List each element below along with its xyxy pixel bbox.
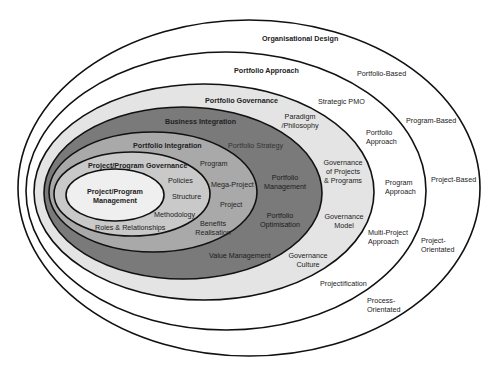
label-portfolio-optimisation-line2: Optimisation xyxy=(255,220,305,229)
label-paradigm-line1: Paradigm xyxy=(278,112,322,121)
label-portfolio-governance: Portfolio Governance xyxy=(205,96,278,105)
label-portfolio-approach-right: Portfolio Approach xyxy=(366,128,397,146)
label-roles-relationships: Roles & Relationships xyxy=(95,223,165,232)
label-portfolio-based: Portfolio-Based xyxy=(357,69,406,78)
label-program-approach-line1: Program xyxy=(385,178,416,187)
label-gov-culture-line2: Culture xyxy=(286,260,330,269)
label-program: Program xyxy=(200,159,228,168)
label-gov-projects-line2: of Projects xyxy=(321,167,365,176)
label-structure: Structure xyxy=(172,192,201,201)
label-multi-project-approach-line1: Multi-Project xyxy=(368,228,408,237)
label-portfolio-management-line2: Management xyxy=(262,182,308,191)
label-program-approach: Program Approach xyxy=(385,178,416,196)
label-paradigm-line2: /Philosophy xyxy=(278,121,322,130)
label-gov-projects-line1: Governance xyxy=(321,158,365,167)
label-business-integration: Business Integration xyxy=(165,117,236,126)
label-gov-model-line2: Model xyxy=(322,221,366,230)
label-program-approach-line2: Approach xyxy=(385,187,416,196)
label-portfolio-management-line1: Portfolio xyxy=(262,173,308,182)
label-gov-model-line1: Governance xyxy=(322,212,366,221)
label-project-program-governance: Project/Program Governance xyxy=(88,161,187,170)
label-benefits-line1: Benefits xyxy=(193,219,233,228)
label-benefits-realisation: Benefits Realisation xyxy=(193,219,233,237)
label-portfolio-management: Portfolio Management xyxy=(262,173,308,191)
label-value-management: Value Management xyxy=(209,251,271,260)
label-process-orientated: Process- Orientated xyxy=(367,296,401,314)
label-project-orientated-line2: Orientated xyxy=(421,245,455,254)
label-projectification: Projectification xyxy=(320,279,367,288)
label-benefits-line2: Realisation xyxy=(193,228,233,237)
label-portfolio-approach: Portfolio Approach xyxy=(234,66,299,75)
label-multi-project-approach: Multi-Project Approach xyxy=(368,228,408,246)
label-policies: Policies xyxy=(168,176,193,185)
label-methodology: Methodology xyxy=(154,210,195,219)
label-project: Project xyxy=(220,200,242,209)
label-project-program-management: Project/Program Management xyxy=(84,187,146,205)
label-portfolio-integration: Portfolio Integration xyxy=(133,141,202,150)
label-process-orientated-line2: Orientated xyxy=(367,305,401,314)
label-project-orientated-line1: Project- xyxy=(421,236,455,245)
label-process-orientated-line1: Process- xyxy=(367,296,401,305)
label-gov-culture-line1: Governance xyxy=(286,251,330,260)
label-ppm-line2: Management xyxy=(84,196,146,205)
label-governance-of-projects-programs: Governance of Projects & Programs xyxy=(321,158,365,185)
label-strategic-pmo: Strategic PMO xyxy=(318,97,365,106)
label-organisational-design: Organisational Design xyxy=(262,34,338,43)
label-governance-model: Governance Model xyxy=(322,212,366,230)
label-project-based: Project-Based xyxy=(431,175,476,184)
label-portfolio-optimisation: Portfolio Optimisation xyxy=(255,211,305,229)
label-portfolio-approach-right-line2: Approach xyxy=(366,137,397,146)
label-portfolio-optimisation-line1: Portfolio xyxy=(255,211,305,220)
label-gov-projects-line3: & Programs xyxy=(321,176,365,185)
label-portfolio-strategy: Portfolio Strategy xyxy=(228,141,283,150)
label-multi-project-approach-line2: Approach xyxy=(368,237,408,246)
label-mega-project: Mega-Project xyxy=(211,180,254,189)
label-project-orientated: Project- Orientated xyxy=(421,236,455,254)
label-governance-culture: Governance Culture xyxy=(286,251,330,269)
label-portfolio-approach-right-line1: Portfolio xyxy=(366,128,397,137)
label-paradigm-philosophy: Paradigm /Philosophy xyxy=(278,112,322,130)
label-ppm-line1: Project/Program xyxy=(84,187,146,196)
label-program-based: Program-Based xyxy=(406,116,456,125)
